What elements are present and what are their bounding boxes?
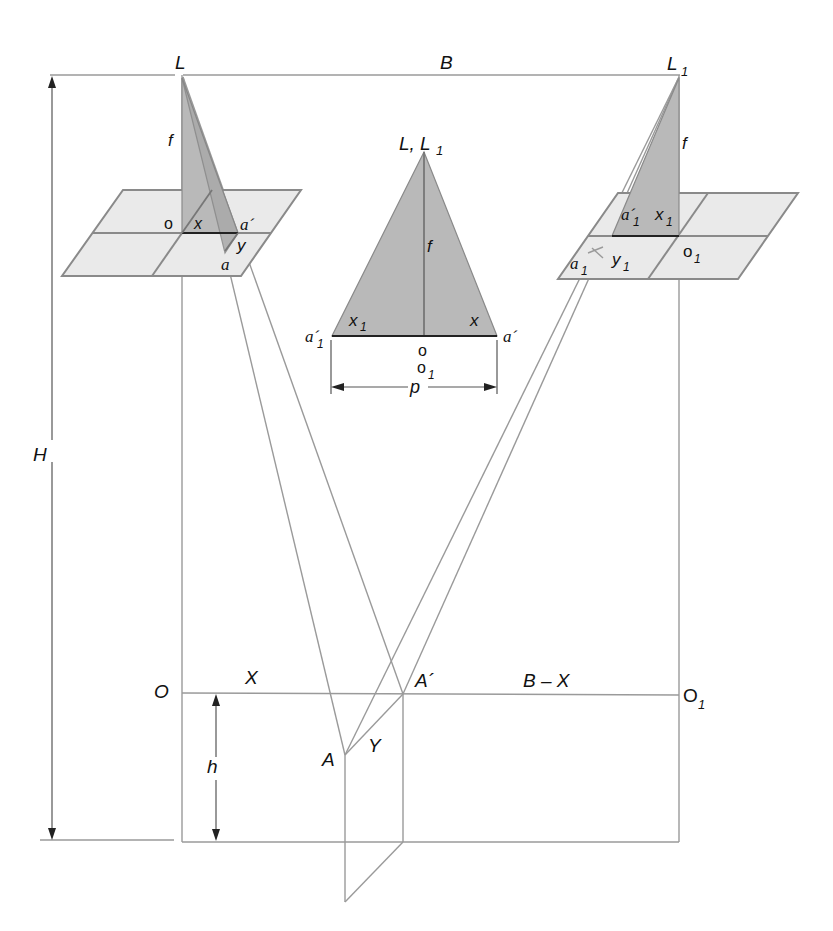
label-y1-sub: 1 — [623, 260, 630, 274]
right-photo-plane — [558, 78, 798, 279]
label-o-left: o — [164, 215, 173, 232]
label-y1: y — [611, 250, 622, 269]
inset-label-a-prime: a´ — [503, 327, 518, 346]
label-a-left: a — [221, 255, 230, 274]
label-h: h — [207, 756, 218, 777]
inset-label-L1-sub: 1 — [436, 143, 443, 158]
label-o1-sub: 1 — [694, 252, 701, 266]
label-H: H — [33, 444, 47, 465]
labels: L B L 1 f f o x a´ y a a´ 1 x 1 a 1 y 1 … — [33, 52, 705, 777]
inset-label-o1-sub: 1 — [428, 368, 435, 382]
inset-label-x: x — [469, 311, 479, 330]
inset-label-o: o — [418, 342, 427, 359]
label-L1: L — [667, 53, 678, 74]
parallax-diagram: L B L 1 f f o x a´ y a a´ 1 x 1 a 1 y 1 … — [0, 0, 833, 931]
label-A-prime: A´ — [414, 670, 435, 691]
label-a-prime-left: a´ — [240, 215, 255, 234]
label-O1: O — [683, 685, 698, 706]
label-x1-sub: 1 — [666, 215, 673, 229]
label-f-left: f — [168, 131, 175, 150]
label-f-right: f — [682, 134, 689, 153]
inset-label-p: p — [409, 377, 420, 397]
flying-height-dimension — [48, 76, 56, 840]
label-L: L — [175, 52, 186, 73]
label-B-minus-X: B – X — [523, 670, 571, 691]
label-B: B — [440, 52, 453, 73]
inset-label-o1: o — [417, 359, 426, 376]
inset-label-L-L1: L, L — [399, 133, 431, 154]
label-O1-sub: 1 — [698, 697, 705, 712]
label-a1-sub: 1 — [581, 264, 588, 278]
label-a1: a — [570, 254, 579, 273]
label-x-left: x — [193, 215, 203, 232]
label-O: O — [154, 681, 169, 702]
label-A: A — [321, 749, 335, 770]
left-photo-plane — [62, 78, 301, 276]
inset-label-x1-sub: 1 — [360, 320, 367, 334]
label-y-left: y — [236, 236, 247, 255]
label-a1-prime-sub: 1 — [633, 215, 640, 229]
label-o1: o — [683, 242, 692, 261]
inset-parallax-triangle — [331, 152, 497, 394]
label-L1-sub: 1 — [681, 64, 688, 79]
label-X: X — [244, 667, 259, 688]
inset-label-a1-prime-sub: 1 — [317, 337, 324, 351]
label-Y: Y — [368, 735, 382, 756]
inset-label-x1: x — [348, 311, 358, 330]
label-x1: x — [654, 205, 664, 224]
